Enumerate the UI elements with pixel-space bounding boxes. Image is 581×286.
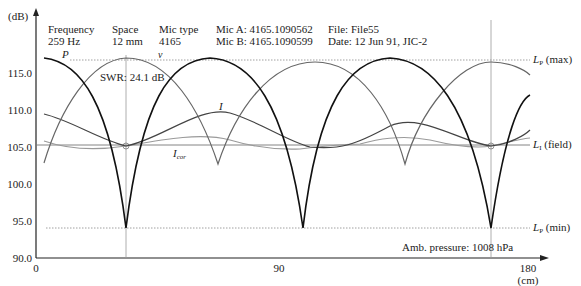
y-axis-arrow-icon [33, 8, 39, 16]
curve-i-label: I [218, 100, 224, 112]
x-tick: 180 [520, 262, 537, 274]
space-value: 12 mm [112, 35, 143, 47]
y-tick: 95.0 [13, 215, 33, 227]
mic-type-label: Mic type [159, 23, 198, 35]
frequency-value: 259 Hz [48, 35, 80, 47]
mic-type-value: 4165 [159, 35, 181, 47]
li-field-label: LI (field) [532, 138, 572, 152]
y-axis-label: (dB) [8, 10, 29, 23]
x-axis-arrow-icon [540, 255, 549, 261]
file-name: File: File55 [328, 23, 379, 35]
lp-max-label: LP (max) [532, 53, 572, 67]
curve-icor-label: Icor [172, 147, 186, 161]
space-label: Space [112, 23, 138, 35]
curve-v-label: v [158, 49, 163, 60]
y-tick: 105.0 [7, 141, 32, 153]
x-tick: 90 [274, 262, 286, 274]
mic-b: Mic B: 4165.1090599 [216, 35, 313, 47]
x-axis-label: (cm) [518, 274, 539, 286]
x-tick: 0 [33, 262, 39, 274]
mic-a: Mic A: 4165.1090562 [216, 23, 313, 35]
y-tick: 110.0 [8, 104, 33, 116]
amb-pressure-label: Amb. pressure: 1008 hPa [402, 241, 513, 253]
lp-min-label: LP (min) [532, 221, 571, 235]
y-tick: 90.0 [13, 252, 33, 264]
curve-p-label: P [61, 48, 69, 60]
frequency-label: Frequency [48, 23, 94, 35]
y-tick: 115.0 [8, 67, 33, 79]
curve-i [44, 112, 530, 148]
swr-label: SWR: 24.1 dB [100, 71, 164, 83]
y-tick: 100.0 [7, 178, 32, 190]
date: Date: 12 Jun 91, JIC-2 [328, 35, 427, 47]
